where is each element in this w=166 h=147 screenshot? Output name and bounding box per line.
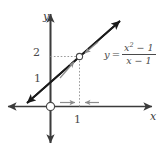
approach-arrow-from-right [85, 42, 98, 53]
limit-graph-figure: 2 1 1 y x y = x2 − 1 x − 1 [0, 0, 166, 147]
coordinate-plane-svg [0, 0, 166, 147]
guide-lines [51, 57, 80, 107]
equation-denominator: x − 1 [124, 56, 153, 66]
y-axis-label: y [43, 11, 49, 22]
equation-equals-sign: = [112, 49, 120, 60]
numerator-rest: − 1 [137, 42, 154, 53]
equation-lhs: y [104, 49, 110, 60]
numerator-exponent: 2 [129, 41, 133, 49]
equation-annotation: y = x2 − 1 x − 1 [104, 43, 156, 66]
y-axis-tick-label-1: 1 [34, 73, 41, 84]
approach-arrow-from-left [60, 62, 74, 78]
origin-open-circle [46, 102, 54, 110]
y-axis-tick-label-2: 2 [33, 47, 40, 58]
x-axis-label: x [150, 111, 156, 122]
equation-fraction: x2 − 1 x − 1 [122, 43, 156, 66]
hole-open-circle [76, 53, 82, 59]
x-axis-tick-label-1: 1 [74, 114, 81, 125]
equation-numerator: x2 − 1 [122, 43, 156, 53]
